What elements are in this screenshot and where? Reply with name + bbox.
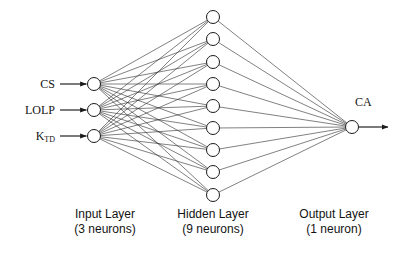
hidden-neuron-2 — [207, 33, 220, 46]
caption-hidden-layer: Hidden Layer (9 neurons) — [177, 207, 248, 237]
edges-hidden-to-output — [218, 21, 347, 192]
hidden-neuron-6 — [207, 122, 220, 135]
hidden-neuron-7 — [207, 144, 220, 157]
hidden-neuron-3 — [207, 56, 220, 69]
caption-hidden-line2: (9 neurons) — [177, 222, 248, 237]
caption-input-layer: Input Layer (3 neurons) — [74, 207, 135, 237]
hidden-neuron-4 — [207, 78, 220, 91]
input-neuron-2 — [88, 104, 101, 117]
caption-hidden-line1: Hidden Layer — [177, 207, 248, 222]
neural-network-diagram: CS LOLP KTD CA Input Layer (3 neurons) H… — [0, 0, 400, 257]
output-neuron-1 — [346, 121, 359, 134]
caption-input-line2: (3 neurons) — [74, 222, 135, 237]
hidden-neuron-8 — [207, 166, 220, 179]
edges-input-to-hidden — [99, 20, 209, 192]
input-arrows — [60, 84, 87, 136]
caption-input-line1: Input Layer — [74, 207, 135, 222]
input-label-lolp: LOLP — [25, 104, 55, 116]
input-label-ktd: KTD — [36, 130, 55, 142]
input-neurons — [88, 78, 101, 143]
hidden-neuron-1 — [207, 11, 220, 24]
hidden-neuron-5 — [207, 100, 220, 113]
hidden-neurons — [207, 11, 220, 202]
hidden-neuron-9 — [207, 189, 220, 202]
output-neurons — [346, 121, 359, 134]
caption-output-line2: (1 neuron) — [299, 222, 368, 237]
input-neuron-3 — [88, 130, 101, 143]
input-neuron-1 — [88, 78, 101, 91]
caption-output-line1: Output Layer — [299, 207, 368, 222]
input-label-cs: CS — [40, 78, 55, 90]
caption-output-layer: Output Layer (1 neuron) — [299, 207, 368, 237]
output-label-ca: CA — [355, 96, 372, 108]
